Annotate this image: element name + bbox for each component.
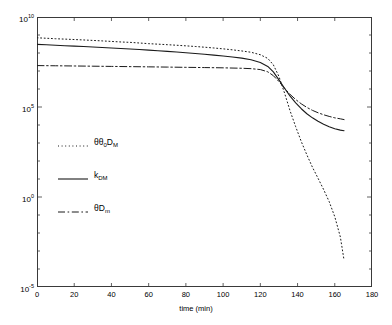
x-axis-title: time (min) [0, 304, 392, 313]
legend-item-theta-theta0-DM: θθ0DM [58, 136, 178, 169]
legend-item-theta-Dm: θDm [58, 202, 178, 235]
x-tick-label: 80 [171, 291, 201, 299]
legend-line-sample [58, 142, 88, 150]
legend-line-sample [58, 175, 88, 183]
legend-item-k-DM: kDM [58, 169, 178, 202]
x-tick-label: 20 [59, 291, 89, 299]
legend-label: kDM [94, 170, 108, 183]
y-tick-label: 105 [0, 102, 34, 114]
x-tick-label: 60 [134, 291, 164, 299]
y-tick-label: 1010 [0, 12, 34, 24]
x-tick-label: 120 [245, 291, 275, 299]
x-tick-label: 100 [208, 291, 238, 299]
x-tick-label: 0 [22, 291, 52, 299]
figure: 101010510010-5 020406080100120140160180 … [0, 0, 392, 325]
legend-label: θDm [94, 203, 110, 216]
x-tick-label: 40 [96, 291, 126, 299]
y-tick-label: 100 [0, 192, 34, 204]
x-tick-label: 180 [357, 291, 387, 299]
x-tick-label: 160 [320, 291, 350, 299]
legend-line-sample [58, 208, 88, 216]
x-tick-label: 140 [283, 291, 313, 299]
legend-label: θθ0DM [94, 137, 118, 150]
legend: θθ0DMkDMθDm [58, 136, 178, 235]
